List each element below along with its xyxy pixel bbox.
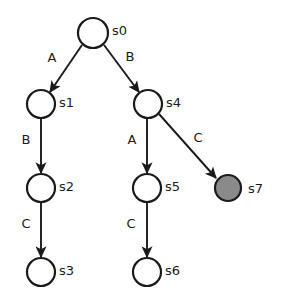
state-label-s6: s6 bbox=[165, 263, 180, 278]
state-node-s5[interactable] bbox=[133, 174, 161, 202]
state-label-s5: s5 bbox=[165, 179, 180, 194]
transition-label-s4-s7: C bbox=[193, 130, 202, 145]
state-label-s4: s4 bbox=[166, 95, 181, 110]
state-node-s0[interactable] bbox=[78, 18, 108, 48]
edge-labels-layer: ABBCACC bbox=[21, 49, 202, 231]
transition-arrow-s4-s7 bbox=[159, 114, 216, 178]
state-node-s3[interactable] bbox=[27, 258, 55, 286]
transition-label-s0-s4: B bbox=[126, 49, 135, 64]
state-node-s2[interactable] bbox=[27, 174, 55, 202]
transition-label-s0-s1: A bbox=[48, 50, 57, 65]
transition-label-s5-s6: C bbox=[126, 216, 135, 231]
state-node-s1[interactable] bbox=[27, 90, 55, 118]
state-label-s3: s3 bbox=[59, 263, 74, 278]
transition-label-s1-s2: B bbox=[22, 132, 31, 147]
node-labels-layer: s0s1s4s2s5s7s3s6 bbox=[59, 23, 263, 278]
state-node-s4[interactable] bbox=[134, 90, 162, 118]
state-node-s6[interactable] bbox=[133, 258, 161, 286]
state-label-s1: s1 bbox=[59, 95, 74, 110]
transition-label-s2-s3: C bbox=[21, 216, 30, 231]
state-node-s7[interactable] bbox=[215, 175, 241, 201]
state-transition-diagram: ABBCACC s0s1s4s2s5s7s3s6 bbox=[0, 0, 281, 300]
state-label-s2: s2 bbox=[59, 179, 74, 194]
transition-label-s4-s5: A bbox=[128, 132, 137, 147]
state-label-s7: s7 bbox=[248, 181, 263, 196]
state-diagram-canvas: ABBCACC s0s1s4s2s5s7s3s6 bbox=[0, 0, 281, 300]
state-label-s0: s0 bbox=[112, 23, 127, 38]
